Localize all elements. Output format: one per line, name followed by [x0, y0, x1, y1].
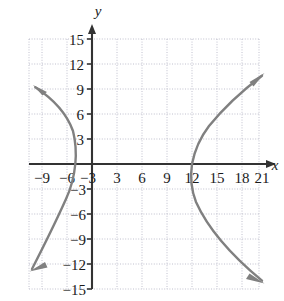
- graph-figure: 15 12 9 6 3 −3 −6 −9 −12 −15 −9 −6 −3 3 …: [0, 0, 284, 301]
- ticklabel-x-18: 18: [235, 170, 250, 186]
- ticklabel-y-neg6: −6: [70, 207, 86, 223]
- ticklabel-y-neg15: −15: [63, 282, 86, 298]
- ticklabel-y-15: 15: [69, 32, 84, 48]
- ticklabel-x-9: 9: [163, 170, 171, 186]
- ticklabel-x-6: 6: [138, 170, 146, 186]
- ticklabel-x-21: 21: [255, 170, 270, 186]
- y-axis-label: y: [93, 3, 102, 19]
- coordinate-plane: 15 12 9 6 3 −3 −6 −9 −12 −15 −9 −6 −3 3 …: [0, 0, 284, 301]
- ticklabel-y-neg12: −12: [63, 257, 86, 273]
- ticklabel-y-12: 12: [69, 57, 84, 73]
- ticklabel-x-3: 3: [113, 170, 121, 186]
- ticklabel-x-15: 15: [210, 170, 225, 186]
- ticklabel-x-neg3: −3: [80, 170, 96, 186]
- x-axis-label: x: [271, 157, 279, 173]
- ticklabel-y-3: 3: [77, 132, 85, 148]
- ticklabel-y-neg9: −9: [70, 232, 86, 248]
- ticklabel-y-6: 6: [77, 107, 85, 123]
- ticklabel-x-neg9: −9: [34, 170, 50, 186]
- ticklabel-y-9: 9: [77, 82, 85, 98]
